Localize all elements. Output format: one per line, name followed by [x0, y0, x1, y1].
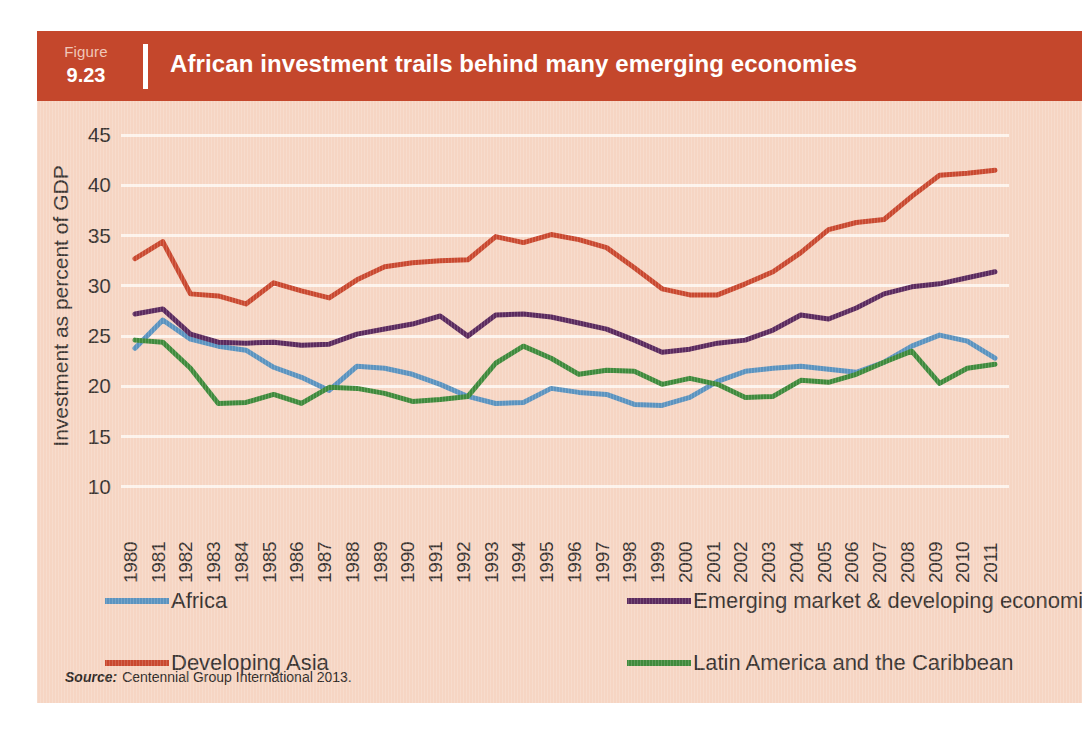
x-tick-label: 1994	[508, 513, 530, 583]
y-tick-label: 15	[65, 426, 111, 447]
x-tick-label: 1991	[425, 513, 447, 583]
plot-area	[121, 125, 1009, 507]
x-tick-label: 1985	[259, 513, 281, 583]
y-tick-label: 30	[65, 275, 111, 296]
figure-number: 9.23	[37, 64, 135, 87]
x-tick-label: 1983	[203, 513, 225, 583]
x-tick-label: 1989	[370, 513, 392, 583]
x-tick-label: 2002	[730, 513, 752, 583]
figure-title: African investment trails behind many em…	[170, 50, 857, 78]
y-tick-label: 10	[65, 476, 111, 497]
chart-legend: AfricaDeveloping AsiaEmerging market & d…	[105, 585, 1055, 673]
x-tick-label: 2000	[675, 513, 697, 583]
x-tick-label: 2004	[786, 513, 808, 583]
series-lines	[121, 125, 1009, 507]
chart-panel: Investment as percent of GDP 45403530252…	[37, 101, 1082, 703]
y-tick-label: 35	[65, 225, 111, 246]
header-divider	[143, 44, 148, 89]
legend-item[interactable]: Latin America and the Caribbean	[627, 647, 1013, 679]
figure-word-label: Figure	[37, 43, 135, 60]
x-tick-label: 2005	[814, 513, 836, 583]
x-tick-label: 1995	[536, 513, 558, 583]
figure-container: Figure 9.23 African investment trails be…	[0, 0, 1084, 733]
legend-swatch	[627, 598, 691, 604]
x-tick-label: 1981	[148, 513, 170, 583]
x-axis-tick-labels: 1980198119821983198419851986198719881989…	[121, 509, 1009, 583]
x-tick-label: 2003	[758, 513, 780, 583]
source-text: Centennial Group International 2013.	[122, 669, 352, 685]
series-line	[135, 340, 995, 403]
source-note: Source:Centennial Group International 20…	[65, 669, 352, 685]
x-tick-label: 1997	[592, 513, 614, 583]
x-tick-label: 2009	[925, 513, 947, 583]
series-line	[135, 272, 995, 352]
y-tick-label: 40	[65, 174, 111, 195]
x-tick-label: 1993	[481, 513, 503, 583]
x-tick-label: 1990	[397, 513, 419, 583]
x-tick-label: 1988	[342, 513, 364, 583]
x-tick-label: 2006	[841, 513, 863, 583]
x-tick-label: 2008	[897, 513, 919, 583]
figure-header-bar: Figure 9.23 African investment trails be…	[37, 31, 1082, 101]
x-tick-label: 2011	[980, 513, 1002, 583]
legend-swatch	[105, 598, 169, 604]
x-tick-label: 1992	[453, 513, 475, 583]
series-line	[135, 320, 995, 405]
legend-label: Latin America and the Caribbean	[693, 650, 1013, 676]
y-tick-label: 45	[65, 124, 111, 145]
x-tick-label: 1982	[175, 513, 197, 583]
x-tick-label: 1999	[647, 513, 669, 583]
x-tick-label: 1996	[564, 513, 586, 583]
x-tick-label: 1987	[314, 513, 336, 583]
x-tick-label: 1998	[619, 513, 641, 583]
legend-item[interactable]: Africa	[105, 585, 227, 617]
x-tick-label: 1986	[286, 513, 308, 583]
legend-label: Africa	[171, 588, 227, 614]
legend-label: Emerging market & developing economies	[693, 588, 1082, 614]
legend-swatch	[627, 660, 691, 666]
x-tick-label: 1984	[231, 513, 253, 583]
x-tick-label: 1980	[120, 513, 142, 583]
series-line	[135, 170, 995, 304]
x-tick-label: 2001	[703, 513, 725, 583]
legend-item[interactable]: Emerging market & developing economies	[627, 585, 1082, 617]
legend-swatch	[105, 660, 169, 666]
x-tick-label: 2007	[869, 513, 891, 583]
y-tick-label: 20	[65, 375, 111, 396]
y-tick-label: 25	[65, 325, 111, 346]
figure-number-block: Figure 9.23	[37, 31, 135, 101]
x-tick-label: 2010	[952, 513, 974, 583]
y-axis-tick-labels: 4540353025201510	[59, 125, 111, 507]
source-label: Source:	[65, 669, 117, 685]
